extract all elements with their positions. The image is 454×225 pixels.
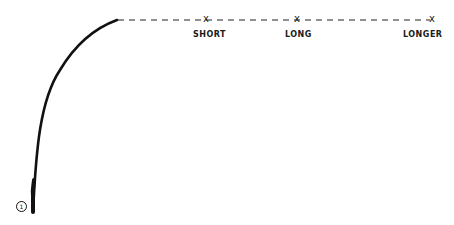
- figure-number-badge: 1: [16, 201, 27, 212]
- label-short: SHORT: [193, 30, 226, 39]
- label-long: LONG: [285, 30, 312, 39]
- diagram-canvas: [0, 0, 454, 225]
- x-mark-long: x: [294, 14, 300, 24]
- figure-number: 1: [20, 203, 24, 210]
- x-mark-short: x: [203, 14, 209, 24]
- rod-handle: [33, 180, 34, 212]
- x-mark-longer: x: [429, 14, 435, 24]
- label-longer: LONGER: [403, 30, 443, 39]
- rod-curve: [33, 20, 117, 212]
